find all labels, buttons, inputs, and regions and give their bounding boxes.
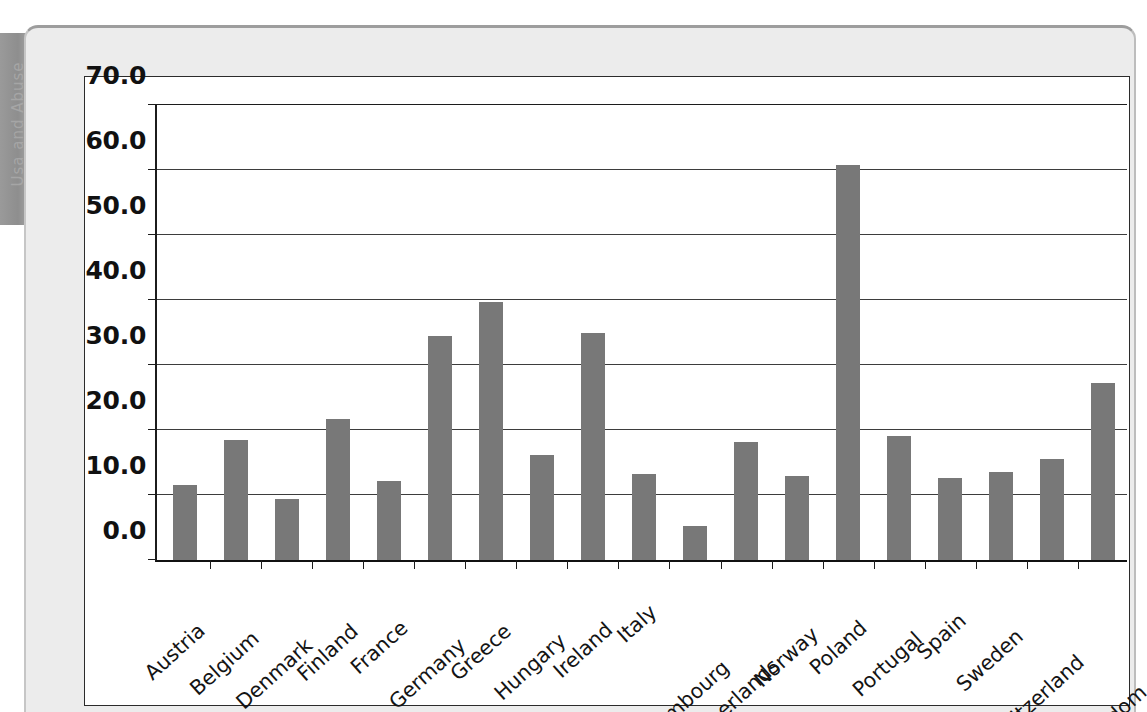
bar[interactable] bbox=[632, 474, 656, 560]
x-label-slot: Luxembourg bbox=[667, 564, 718, 704]
y-axis-tick-label: 10.0 bbox=[86, 451, 146, 480]
bar-slot bbox=[669, 102, 720, 560]
bar-slot bbox=[618, 102, 669, 560]
x-label-slot: Portugal bbox=[872, 564, 923, 704]
y-axis-tick-label: 40.0 bbox=[86, 256, 146, 285]
bar-slot bbox=[363, 102, 414, 560]
plot-area: 70.060.050.040.030.020.010.00.0 bbox=[155, 104, 1127, 562]
bar-slot bbox=[567, 102, 618, 560]
x-label-slot: Finland bbox=[310, 564, 361, 704]
x-label-slot: Norway bbox=[770, 564, 821, 704]
bar[interactable] bbox=[989, 472, 1013, 560]
x-label-slot: Italy bbox=[616, 564, 667, 704]
y-axis-tick-mark bbox=[148, 299, 157, 300]
bar[interactable] bbox=[275, 499, 299, 561]
figure-frame: 70.060.050.040.030.020.010.00.0 AustriaB… bbox=[24, 25, 1136, 712]
bar-slot bbox=[721, 102, 772, 560]
bar-slot bbox=[1078, 102, 1129, 560]
bar-slot bbox=[874, 102, 925, 560]
y-axis-tick-label: 0.0 bbox=[103, 516, 146, 545]
x-label-slot: Germany bbox=[412, 564, 463, 704]
bars-group bbox=[159, 102, 1129, 560]
x-label-slot: Sweden bbox=[974, 564, 1025, 704]
y-axis-tick-label: 20.0 bbox=[86, 386, 146, 415]
bar[interactable] bbox=[428, 336, 452, 560]
bar[interactable] bbox=[1091, 383, 1115, 560]
x-label-slot: United Kingdom bbox=[1076, 564, 1127, 704]
bar-slot bbox=[210, 102, 261, 560]
bar[interactable] bbox=[836, 165, 860, 560]
x-axis-category-label-text: Italy bbox=[612, 600, 661, 648]
bar[interactable] bbox=[734, 442, 758, 560]
bar-slot bbox=[159, 102, 210, 560]
bar[interactable] bbox=[326, 419, 350, 560]
bar-slot bbox=[465, 102, 516, 560]
bar-slot bbox=[925, 102, 976, 560]
bar[interactable] bbox=[224, 440, 248, 560]
x-axis-labels-group: AustriaBelgiumDenmarkFinlandFranceGerman… bbox=[157, 564, 1127, 704]
bar[interactable] bbox=[887, 436, 911, 560]
bar[interactable] bbox=[938, 478, 962, 560]
bar[interactable] bbox=[785, 476, 809, 560]
y-axis-tick-mark bbox=[148, 169, 157, 170]
bar-slot bbox=[823, 102, 874, 560]
bar-slot bbox=[772, 102, 823, 560]
y-axis-tick-mark bbox=[148, 429, 157, 430]
bar[interactable] bbox=[1040, 459, 1064, 560]
y-axis-tick-label: 60.0 bbox=[86, 126, 146, 155]
bar-slot bbox=[414, 102, 465, 560]
bar[interactable] bbox=[581, 333, 605, 560]
y-axis-tick-label: 70.0 bbox=[86, 61, 146, 90]
y-axis-tick-label: 30.0 bbox=[86, 321, 146, 350]
y-axis-tick-mark bbox=[148, 494, 157, 495]
x-label-slot: Denmark bbox=[259, 564, 310, 704]
y-axis-tick-label: 50.0 bbox=[86, 191, 146, 220]
bar[interactable] bbox=[479, 302, 503, 560]
bar[interactable] bbox=[683, 526, 707, 560]
bar-slot bbox=[516, 102, 567, 560]
y-axis-tick-mark bbox=[148, 104, 157, 105]
plot-wrapper: 70.060.050.040.030.020.010.00.0 AustriaB… bbox=[85, 77, 1131, 707]
bar-slot bbox=[1027, 102, 1078, 560]
x-label-slot: Switzerland bbox=[1025, 564, 1076, 704]
bar[interactable] bbox=[530, 455, 554, 560]
bar-slot bbox=[261, 102, 312, 560]
bar[interactable] bbox=[377, 481, 401, 560]
y-axis-tick-mark bbox=[148, 364, 157, 365]
y-axis-tick-mark bbox=[148, 559, 157, 560]
bar[interactable] bbox=[173, 485, 197, 560]
bar-slot bbox=[312, 102, 363, 560]
x-label-slot: Hungary bbox=[514, 564, 565, 704]
y-axis-tick-mark bbox=[148, 234, 157, 235]
page-root: Usa and Abuse 70.060.050.040.030.020.010… bbox=[0, 0, 1147, 712]
bar-slot bbox=[976, 102, 1027, 560]
chart-card: 70.060.050.040.030.020.010.00.0 AustriaB… bbox=[84, 76, 1130, 706]
x-label-slot: Ireland bbox=[565, 564, 616, 704]
